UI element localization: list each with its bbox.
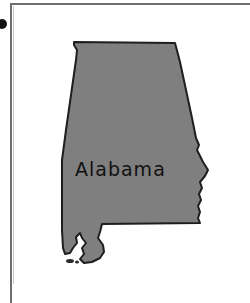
- alabama-outline: [62, 42, 208, 263]
- island-icon: [66, 259, 74, 263]
- island-icon: [75, 261, 79, 264]
- state-label: Alabama: [75, 158, 166, 180]
